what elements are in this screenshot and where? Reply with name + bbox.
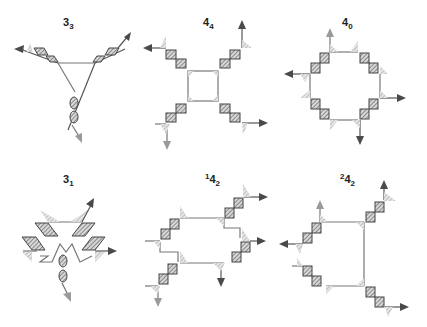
junction-figure: 33 44 40 31 142 242 [0, 0, 427, 327]
panel-label-4-0: 40 [342, 16, 353, 31]
panel-4-4-diagram [143, 20, 268, 150]
panel-label-4-4: 44 [203, 16, 214, 31]
panel-4-0-diagram [284, 28, 406, 145]
panel-3-3-diagram [14, 32, 131, 143]
panel-label-3-1: 31 [63, 173, 74, 188]
panel-label-3-3: 33 [63, 16, 74, 31]
panel-2-4-2-diagram [279, 180, 409, 317]
panel-1-4-2-diagram [145, 184, 268, 307]
panel-label-2-4-2: 242 [340, 172, 356, 188]
panel-3-1-diagram [22, 198, 117, 302]
panel-label-1-4-2: 142 [205, 172, 221, 188]
